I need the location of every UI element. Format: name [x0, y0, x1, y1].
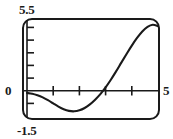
plot-canvas [0, 0, 173, 139]
plot-figure: 5.5 -1.5 0 5 [0, 0, 173, 139]
origin-label: 0 [5, 84, 11, 97]
x-max-label: 5 [163, 84, 169, 97]
y-min-label: -1.5 [17, 124, 36, 137]
y-max-label: 5.5 [19, 3, 34, 16]
